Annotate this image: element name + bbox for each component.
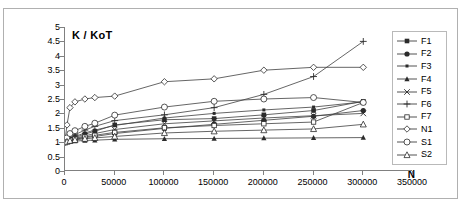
- legend-marker-filled-circle-icon: [395, 48, 419, 60]
- plot-area: [64, 27, 412, 171]
- x-axis-tick-mark: [263, 171, 264, 175]
- y-axis-tick-label: 3.5: [26, 65, 60, 75]
- chart-frame: K / KoT N 00.511.522.533.544.55 05000010…: [3, 8, 458, 199]
- x-axis-tick-mark: [412, 171, 413, 175]
- legend-item-f7[interactable]: F7: [395, 111, 444, 124]
- x-axis-tick-label: 350000: [382, 177, 442, 187]
- y-axis-tick-labels: 00.511.522.533.544.55: [24, 27, 60, 171]
- y-axis-tick-label: 0: [26, 166, 60, 176]
- y-axis-tick-label: 4.5: [26, 36, 60, 46]
- x-axis-tick-labels: 0500001000001500002000002500003000003500…: [64, 171, 412, 191]
- legend-label: F1: [419, 37, 432, 46]
- y-axis-tick-label: 2: [26, 108, 60, 118]
- legend-item-s2[interactable]: S2: [395, 148, 444, 161]
- series-f6: [65, 38, 367, 146]
- legend-marker-plus-icon: [395, 98, 419, 110]
- y-axis-tick-label: 2.5: [26, 94, 60, 104]
- legend-label: F6: [419, 100, 432, 109]
- legend-item-n1[interactable]: N1: [395, 123, 444, 136]
- legend-marker-open-square-icon: [395, 111, 419, 123]
- legend-item-s1[interactable]: S1: [395, 136, 444, 149]
- legend-item-f3[interactable]: F3: [395, 60, 444, 73]
- x-axis-tick-mark: [362, 171, 363, 175]
- y-axis-tick-label: 1: [26, 137, 60, 147]
- series-f4: [65, 135, 366, 145]
- x-axis-tick-mark: [163, 171, 164, 175]
- legend-label: F3: [419, 62, 432, 71]
- legend-marker-open-triangle-icon: [395, 149, 419, 161]
- legend-item-f1[interactable]: F1: [395, 35, 444, 48]
- y-axis-tick-label: 1.5: [26, 123, 60, 133]
- legend-marker-open-circle-icon: [395, 136, 419, 148]
- legend-marker-filled-square-icon: [395, 35, 419, 47]
- x-axis-tick-mark: [213, 171, 214, 175]
- y-axis-tick-label: 5: [26, 22, 60, 32]
- legend-item-f2[interactable]: F2: [395, 48, 444, 61]
- y-axis-tick-label: 4: [26, 51, 60, 61]
- legend-label: N1: [419, 125, 433, 134]
- legend-marker-open-diamond-icon: [395, 123, 419, 135]
- legend-label: S2: [419, 150, 432, 159]
- legend-marker-x-cross-icon: [395, 86, 419, 98]
- x-axis-tick-mark: [114, 171, 115, 175]
- x-axis-tick-mark: [313, 171, 314, 175]
- legend-label: F2: [419, 49, 432, 58]
- legend-marker-filled-triangle-icon: [395, 73, 419, 85]
- series-canvas: [65, 27, 413, 171]
- legend-label: F4: [419, 75, 432, 84]
- x-axis-tick-mark: [64, 171, 65, 175]
- y-axis-tick-label: 0.5: [26, 152, 60, 162]
- legend-label: F5: [419, 87, 432, 96]
- legend-item-f4[interactable]: F4: [395, 73, 444, 86]
- legend-label: F7: [419, 112, 432, 121]
- legend-item-f5[interactable]: F5: [395, 85, 444, 98]
- legend-marker-small-filled-square-icon: [395, 60, 419, 72]
- legend-label: S1: [419, 138, 432, 147]
- legend-item-f6[interactable]: F6: [395, 98, 444, 111]
- y-axis-tick-label: 3: [26, 80, 60, 90]
- chart-legend: F1F2F3F4F5F6F7N1S1S2: [392, 31, 447, 165]
